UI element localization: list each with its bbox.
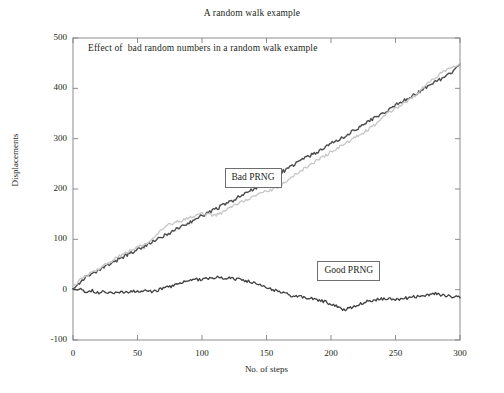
x-tick-label: 200 [311, 348, 351, 358]
x-tick-label: 0 [53, 348, 93, 358]
y-tick-label: 100 [21, 233, 67, 243]
x-tick-label: 100 [182, 348, 222, 358]
y-tick-label: 300 [21, 133, 67, 143]
x-tick-label: 150 [247, 348, 287, 358]
x-tick-label: 300 [440, 348, 480, 358]
axis-ticks [73, 38, 460, 340]
plot-canvas [0, 0, 504, 393]
y-tick-label: 400 [21, 82, 67, 92]
series-callout: Bad PRNG [225, 168, 282, 189]
data-series-line [73, 276, 460, 311]
series-callout: Good PRNG [317, 261, 380, 282]
y-tick-label: 0 [21, 284, 67, 294]
y-tick-label: -100 [21, 334, 67, 344]
axes-frame [73, 38, 460, 340]
chart-figure: A random walk example Effect of bad rand… [0, 0, 504, 393]
x-tick-label: 250 [376, 348, 416, 358]
y-tick-label: 200 [21, 183, 67, 193]
y-tick-label: 500 [21, 32, 67, 42]
x-tick-label: 50 [118, 348, 158, 358]
